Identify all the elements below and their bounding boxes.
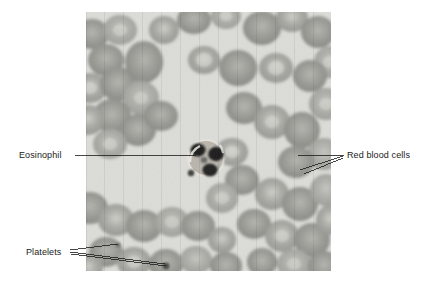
micrograph-canvas — [86, 12, 331, 271]
blood-smear-figure: Eosinophil Red blood cells Platelets — [0, 0, 439, 288]
annotation-label-eosinophil: Eosinophil — [19, 150, 62, 160]
annotation-label-red-blood-cells: Red blood cells — [347, 150, 410, 160]
micrograph-image — [86, 12, 331, 271]
annotation-label-platelets: Platelets — [26, 247, 61, 257]
